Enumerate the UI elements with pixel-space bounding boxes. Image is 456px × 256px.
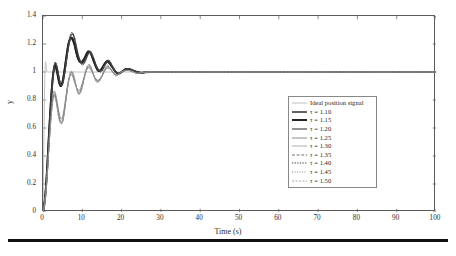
legend-line-swatch-icon	[291, 159, 308, 167]
legend-item-label: τ = 1.30	[310, 142, 331, 150]
legend-line-swatch-icon	[291, 125, 308, 133]
legend-item-label: Ideal position signal	[310, 99, 363, 107]
figure-container: 1.4 1.2 1 0.8 0.6 0.4 0.2 0 y 0 10 20 30…	[0, 0, 456, 256]
x-tick-label: 70	[302, 214, 332, 222]
legend-item-label: τ = 1.40	[310, 159, 331, 167]
legend-line-swatch-icon	[291, 134, 308, 142]
x-tick-label: 50	[224, 214, 254, 222]
x-tick-label: 0	[27, 214, 57, 222]
x-tick-label: 40	[184, 214, 214, 222]
legend-item-label: τ = 1.15	[310, 116, 331, 124]
legend-line-swatch-icon	[291, 168, 308, 176]
legend-item[interactable]: τ = 1.10	[291, 108, 373, 117]
legend-item[interactable]: τ = 1.50	[291, 176, 373, 185]
x-tick-label: 10	[66, 214, 96, 222]
bottom-rule	[8, 239, 448, 242]
legend-item[interactable]: τ = 1.40	[291, 159, 373, 168]
legend-line-swatch-icon	[291, 151, 308, 159]
legend-line-swatch-icon	[291, 108, 308, 116]
x-axis-tick-labels: 0 10 20 30 40 50 60 70 80 90 100	[0, 0, 456, 256]
legend-line-swatch-icon	[291, 177, 308, 185]
legend-item[interactable]: τ = 1.25	[291, 133, 373, 142]
legend-item-label: τ = 1.10	[310, 108, 331, 116]
x-tick-label: 30	[145, 214, 175, 222]
legend-line-swatch-icon	[291, 99, 308, 107]
legend-item[interactable]: τ = 1.15	[291, 116, 373, 125]
x-tick-label: 80	[341, 214, 371, 222]
legend-line-swatch-icon	[291, 142, 308, 150]
legend-item-label: τ = 1.45	[310, 168, 331, 176]
x-tick-label: 20	[106, 214, 136, 222]
legend-line-swatch-icon	[291, 116, 308, 124]
legend-item-label: τ = 1.35	[310, 151, 331, 159]
x-tick-label: 60	[263, 214, 293, 222]
legend-item-label: τ = 1.25	[310, 134, 331, 142]
legend-item[interactable]: τ = 1.30	[291, 142, 373, 151]
legend-item[interactable]: τ = 1.35	[291, 151, 373, 160]
x-tick-label: 90	[381, 214, 411, 222]
legend-item[interactable]: τ = 1.45	[291, 168, 373, 177]
chart-legend[interactable]: Ideal position signalτ = 1.10τ = 1.15τ =…	[288, 96, 377, 188]
legend-item-label: τ = 1.50	[310, 177, 331, 185]
x-axis-title: Time (s)	[0, 227, 456, 236]
legend-item[interactable]: τ = 1.20	[291, 125, 373, 134]
x-tick-label: 100	[420, 214, 450, 222]
legend-item[interactable]: Ideal position signal	[291, 99, 373, 108]
legend-item-label: τ = 1.20	[310, 125, 331, 133]
